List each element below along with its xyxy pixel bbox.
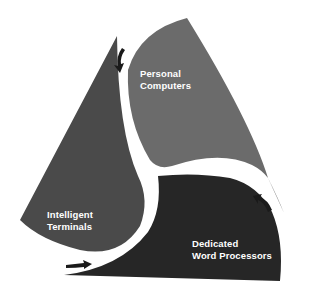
label-line: Intelligent bbox=[47, 209, 93, 221]
label-line: Computers bbox=[140, 80, 191, 92]
label-line: Dedicated bbox=[192, 238, 272, 250]
label-line: Personal bbox=[140, 68, 191, 80]
label-line: Word Processors bbox=[192, 250, 272, 262]
label-personal-computers: Personal Computers bbox=[140, 68, 191, 92]
label-dedicated-word-processors: Dedicated Word Processors bbox=[192, 238, 272, 262]
label-line: Terminals bbox=[47, 221, 93, 233]
arrow-right-icon bbox=[66, 260, 92, 269]
label-intelligent-terminals: Intelligent Terminals bbox=[47, 209, 93, 233]
segment-personal-computers bbox=[128, 18, 268, 178]
